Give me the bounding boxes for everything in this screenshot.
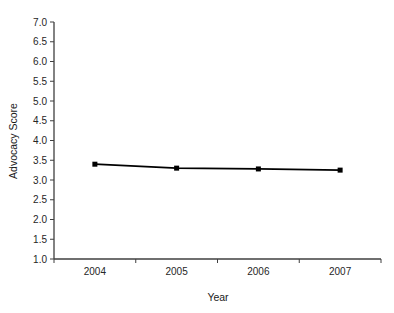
- y-tick-label: 6.5: [33, 36, 47, 47]
- y-tick-label: 1.5: [33, 234, 47, 245]
- y-tick-label: 6.0: [33, 56, 47, 67]
- y-tick-label: 2.5: [33, 194, 47, 205]
- y-tick-label: 1.0: [33, 254, 47, 265]
- y-tick-label: 7.0: [33, 17, 47, 28]
- data-point-marker: [338, 168, 343, 173]
- x-axis-title: Year: [207, 291, 228, 303]
- plot-area: 1.01.52.02.53.03.54.04.55.05.56.06.57.02…: [0, 0, 394, 313]
- y-tick-label: 5.5: [33, 76, 47, 87]
- series-line: [95, 164, 340, 170]
- y-tick-label: 2.0: [33, 214, 47, 225]
- x-tick-label: 2005: [166, 266, 189, 277]
- y-tick-label: 4.5: [33, 115, 47, 126]
- y-tick-label: 3.5: [33, 155, 47, 166]
- data-point-marker: [92, 162, 97, 167]
- x-tick-label: 2006: [247, 266, 270, 277]
- y-tick-label: 4.0: [33, 135, 47, 146]
- advocacy-score-line-chart: 1.01.52.02.53.03.54.04.55.05.56.06.57.02…: [0, 0, 394, 313]
- y-tick-label: 3.0: [33, 175, 47, 186]
- y-tick-label: 5.0: [33, 96, 47, 107]
- x-tick-label: 2007: [329, 266, 352, 277]
- y-axis-title: Advocacy Score: [7, 103, 19, 179]
- data-point-marker: [256, 166, 261, 171]
- data-point-marker: [174, 166, 179, 171]
- x-tick-label: 2004: [84, 266, 107, 277]
